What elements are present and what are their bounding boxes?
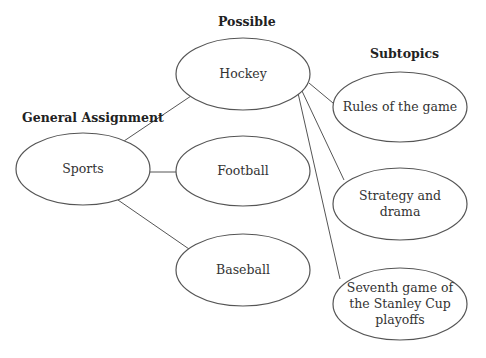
node-strategy: Strategy and drama — [333, 168, 467, 240]
node-sports-label: Sports — [62, 161, 104, 177]
node-sports: Sports — [16, 133, 150, 205]
heading-possible: Possible — [218, 16, 276, 29]
node-rules: Rules of the game — [333, 72, 467, 142]
node-seventh-label-line1: Seventh game of — [347, 280, 453, 296]
node-baseball: Baseball — [176, 234, 310, 306]
diagram-canvas: General Assignment Possible Subtopics Sp… — [0, 0, 486, 358]
edge-hockey-rules — [309, 83, 333, 103]
node-seventh-game: Seventh game of the Stanley Cup playoffs — [333, 268, 467, 340]
node-strategy-label-line2: drama — [380, 204, 421, 220]
node-seventh-label-line2: the Stanley Cup — [349, 296, 451, 312]
node-football-label: Football — [217, 163, 269, 179]
heading-subtopics: Subtopics — [370, 48, 439, 61]
node-baseball-label: Baseball — [216, 262, 270, 278]
node-seventh-label-line3: playoffs — [375, 312, 424, 328]
node-hockey-label: Hockey — [219, 66, 266, 82]
node-football: Football — [176, 136, 310, 206]
heading-general-assignment: General Assignment — [22, 112, 164, 125]
node-rules-label: Rules of the game — [343, 99, 458, 115]
node-strategy-label-line1: Strategy and — [359, 188, 441, 204]
node-hockey: Hockey — [176, 38, 310, 110]
